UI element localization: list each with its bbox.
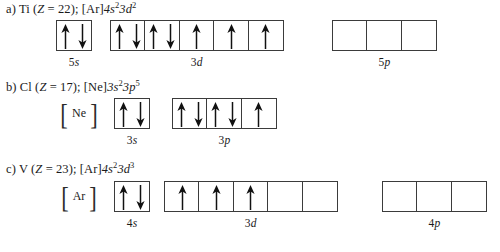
orbital-box[interactable] bbox=[144, 20, 180, 51]
orbital-diagram-figure: a) Ti (Z = 22); [Ar]4s23d2 5s bbox=[0, 0, 500, 252]
orbital-box[interactable] bbox=[110, 20, 146, 51]
orbital-box[interactable] bbox=[267, 181, 303, 212]
spin-up-arrow bbox=[245, 185, 256, 210]
entry-c-orbital-row: [ Ar ] 4s bbox=[0, 181, 500, 233]
entry-c-label: c) bbox=[6, 162, 16, 176]
orbital-box[interactable] bbox=[164, 181, 200, 212]
orbital-caption-5s: 5s bbox=[56, 56, 92, 68]
orbital-group-5p: 5p bbox=[332, 20, 437, 68]
entry-b-configuration: [Ne]3s23p5 bbox=[84, 80, 140, 94]
orbital-box[interactable] bbox=[114, 98, 150, 129]
orbital-caption-3p: 3p bbox=[172, 134, 277, 146]
core-label: Ne bbox=[69, 106, 89, 121]
spin-up-arrow bbox=[118, 102, 129, 127]
orbital-caption-3s: 3s bbox=[114, 134, 150, 146]
orbital-box[interactable] bbox=[206, 98, 242, 129]
spin-down-arrow bbox=[77, 24, 88, 49]
orbital-caption-3d: 3d bbox=[110, 56, 284, 68]
entry-a-header: a) Ti (Z = 22); [Ar]4s23d2 bbox=[0, 2, 500, 16]
spin-up-arrow bbox=[211, 185, 222, 210]
orbital-group-3d: 3d bbox=[110, 20, 284, 68]
orbital-box[interactable] bbox=[302, 181, 338, 212]
spin-down-arrow bbox=[193, 102, 204, 127]
entry-a-orbital-row: 5s bbox=[0, 20, 500, 72]
spin-down-arrow bbox=[135, 185, 146, 210]
orbital-group-3s: 3s bbox=[114, 98, 150, 146]
orbital-box[interactable] bbox=[451, 181, 487, 212]
orbital-caption-5p: 5p bbox=[332, 56, 437, 68]
orbital-caption-4p: 4p bbox=[382, 217, 487, 229]
entry-b-label: b) bbox=[6, 80, 17, 94]
orbital-caption-3d: 3d bbox=[164, 217, 338, 229]
bracket-right: ] bbox=[90, 182, 98, 212]
entry-a: a) Ti (Z = 22); [Ar]4s23d2 5s bbox=[0, 2, 500, 72]
orbital-group-3d: 3d bbox=[164, 181, 338, 229]
spin-down-arrow bbox=[165, 24, 176, 49]
spin-up-arrow bbox=[176, 102, 187, 127]
entry-c-element: V bbox=[19, 162, 28, 176]
orbital-boxes-3d bbox=[110, 20, 284, 51]
core-label: Ar bbox=[70, 189, 89, 204]
spin-up-arrow bbox=[226, 24, 237, 49]
orbital-group-5s: 5s bbox=[56, 20, 92, 68]
spin-up-arrow bbox=[191, 24, 202, 49]
spin-up-arrow bbox=[148, 24, 159, 49]
orbital-boxes-3s bbox=[114, 98, 150, 129]
orbital-boxes-3p bbox=[172, 98, 277, 129]
orbital-box[interactable] bbox=[179, 20, 215, 51]
spin-up-arrow bbox=[210, 102, 221, 127]
entry-a-atomic-number: (Z = 22); bbox=[33, 2, 78, 16]
orbital-group-4p: 4p bbox=[382, 181, 487, 229]
entry-c-header: c) V (Z = 23); [Ar]4s23d3 bbox=[0, 162, 500, 176]
orbital-caption-4s: 4s bbox=[114, 217, 150, 229]
orbital-boxes-4s bbox=[114, 181, 150, 212]
entry-b-atomic-number: (Z = 17); bbox=[35, 80, 80, 94]
spin-up-arrow bbox=[114, 24, 125, 49]
orbital-box[interactable] bbox=[233, 181, 269, 212]
bracket-left: [ bbox=[61, 182, 69, 212]
orbital-group-3p: 3p bbox=[172, 98, 277, 146]
orbital-box[interactable] bbox=[366, 20, 402, 51]
orbital-box[interactable] bbox=[198, 181, 234, 212]
bracket-left: [ bbox=[60, 99, 68, 129]
bracket-right: ] bbox=[90, 99, 98, 129]
spin-up-arrow bbox=[118, 185, 129, 210]
entry-c: c) V (Z = 23); [Ar]4s23d3 [ Ar ] bbox=[0, 162, 500, 233]
entry-b-orbital-row: [ Ne ] 3s bbox=[0, 98, 500, 150]
spin-down-arrow bbox=[227, 102, 238, 127]
orbital-box[interactable] bbox=[241, 98, 277, 129]
orbital-box[interactable] bbox=[248, 20, 284, 51]
noble-core-ne: [ Ne ] bbox=[48, 98, 110, 129]
orbital-box[interactable] bbox=[416, 181, 452, 212]
orbital-box[interactable] bbox=[332, 20, 368, 51]
entry-b: b) Cl (Z = 17); [Ne]3s23p5 [ Ne ] bbox=[0, 80, 500, 150]
spin-down-arrow bbox=[135, 102, 146, 127]
entry-b-header: b) Cl (Z = 17); [Ne]3s23p5 bbox=[0, 80, 500, 94]
orbital-boxes-5p bbox=[332, 20, 437, 51]
orbital-box[interactable] bbox=[172, 98, 208, 129]
entry-b-element: Cl bbox=[20, 80, 32, 94]
entry-a-configuration: [Ar]4s23d2 bbox=[82, 2, 137, 16]
spin-up-arrow bbox=[60, 24, 71, 49]
spin-up-arrow bbox=[177, 185, 188, 210]
orbital-boxes-5s bbox=[56, 20, 92, 51]
orbital-box[interactable] bbox=[56, 20, 92, 51]
entry-c-atomic-number: (Z = 23); bbox=[31, 162, 76, 176]
entry-c-configuration: [Ar]4s23d3 bbox=[80, 162, 135, 176]
spin-down-arrow bbox=[131, 24, 142, 49]
orbital-boxes-3d bbox=[164, 181, 338, 212]
orbital-group-4s: 4s bbox=[114, 181, 150, 229]
spin-up-arrow bbox=[260, 24, 271, 49]
entry-a-element: Ti bbox=[19, 2, 30, 16]
noble-core-ar: [ Ar ] bbox=[48, 181, 110, 212]
orbital-box[interactable] bbox=[382, 181, 418, 212]
orbital-box[interactable] bbox=[401, 20, 437, 51]
orbital-box[interactable] bbox=[114, 181, 150, 212]
spin-up-arrow bbox=[253, 102, 264, 127]
orbital-box[interactable] bbox=[213, 20, 249, 51]
entry-a-label: a) bbox=[6, 2, 16, 16]
orbital-boxes-4p bbox=[382, 181, 487, 212]
